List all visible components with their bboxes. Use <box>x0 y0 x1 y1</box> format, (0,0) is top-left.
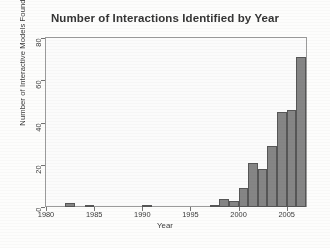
bar-1982 <box>65 203 75 207</box>
bar-2004 <box>277 112 287 207</box>
y-tick-label-80: 80 <box>34 39 43 61</box>
x-tick-label-2000: 2000 <box>219 210 259 219</box>
bar-2006 <box>296 57 306 207</box>
y-tick-label-20: 20 <box>34 165 43 187</box>
bar-1999 <box>229 201 239 207</box>
y-tick-label-60: 60 <box>34 81 43 103</box>
bar-1984 <box>85 205 95 207</box>
bar-2002 <box>258 169 268 207</box>
bar-1990 <box>142 205 152 207</box>
bar-2000 <box>239 188 249 207</box>
bar-2003 <box>267 146 277 207</box>
x-tick-label-2005: 2005 <box>267 210 307 219</box>
bars-container <box>46 38 306 207</box>
x-axis-label: Year <box>0 221 330 230</box>
bar-2001 <box>248 163 258 207</box>
histogram-figure: Number of Interactions Identified by Yea… <box>0 0 330 248</box>
y-tick-label-40: 40 <box>34 123 43 145</box>
bar-2005 <box>287 110 297 207</box>
x-tick-label-1990: 1990 <box>122 210 162 219</box>
x-tick-label-1985: 1985 <box>74 210 114 219</box>
y-axis-label: Number of Interactive Models Found <box>18 0 27 143</box>
x-tick-label-1980: 1980 <box>26 210 66 219</box>
x-tick-label-1995: 1995 <box>170 210 210 219</box>
bar-1998 <box>219 199 229 207</box>
chart-title: Number of Interactions Identified by Yea… <box>0 12 330 24</box>
bar-1997 <box>210 205 220 207</box>
